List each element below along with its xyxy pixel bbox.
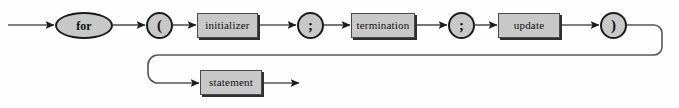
- terminal-right-paren-label: ): [611, 18, 616, 33]
- terminal-for[interactable]: for: [55, 12, 113, 39]
- terminal-semicolon-2-label: ;: [459, 18, 464, 33]
- terminal-semicolon-2[interactable]: ;: [448, 12, 475, 39]
- nonterminal-initializer-label: initializer: [205, 20, 249, 31]
- terminal-left-paren-label: (: [157, 18, 162, 33]
- nonterminal-statement[interactable]: statement: [200, 70, 262, 95]
- nonterminal-update-label: update: [514, 20, 545, 31]
- terminal-right-paren[interactable]: ): [600, 12, 627, 39]
- syntax-diagram: for ( initializer ; termination ; update…: [0, 0, 679, 108]
- nonterminal-termination-label: termination: [357, 20, 410, 31]
- nonterminal-statement-label: statement: [209, 77, 253, 88]
- nonterminal-update[interactable]: update: [498, 13, 560, 38]
- terminal-semicolon-1-label: ;: [308, 18, 313, 33]
- rail-left-turn-to-statement: [148, 55, 199, 83]
- terminal-for-label: for: [76, 20, 91, 32]
- terminal-left-paren[interactable]: (: [146, 12, 173, 39]
- nonterminal-termination[interactable]: termination: [351, 13, 415, 38]
- nonterminal-initializer[interactable]: initializer: [197, 13, 258, 38]
- terminal-semicolon-1[interactable]: ;: [297, 12, 324, 39]
